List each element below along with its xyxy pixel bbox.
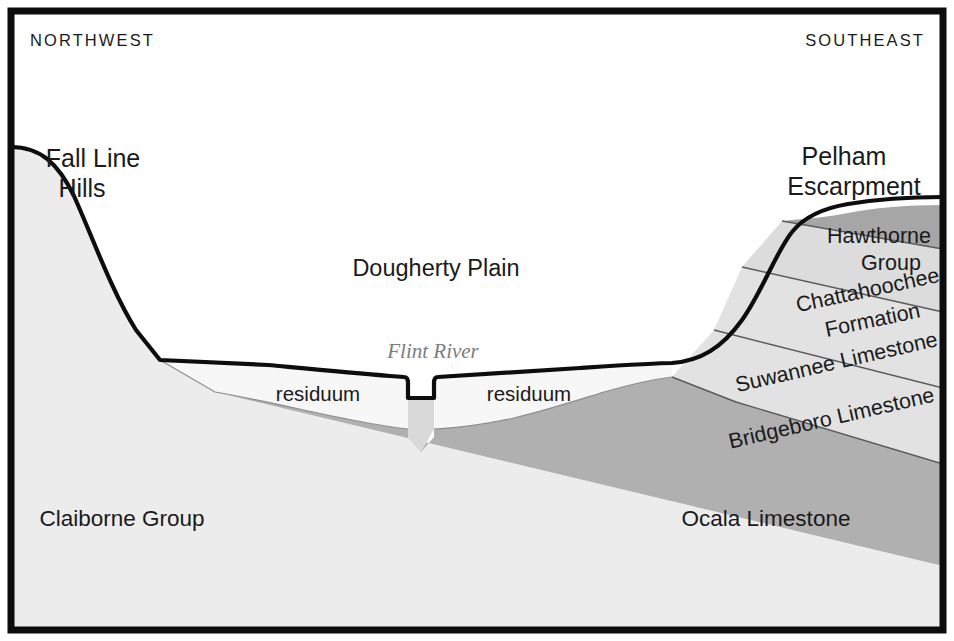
label-dougherty-plain: Dougherty Plain (352, 255, 519, 281)
label-fall-line-hills-line1: Fall Line (46, 144, 141, 172)
label-ocala-limestone: Ocala Limestone (682, 506, 851, 531)
label-pelham-escarpment-line2: Escarpment (787, 172, 920, 200)
cross-section-canvas: NORTHWEST SOUTHEAST Fall Line Hills Doug… (0, 0, 954, 641)
compass-label-southeast: SOUTHEAST (805, 31, 925, 49)
compass-label-northwest: NORTHWEST (30, 31, 155, 49)
label-fall-line-hills-line2: Hills (58, 174, 105, 202)
label-claiborne-group: Claiborne Group (39, 506, 204, 531)
label-residuum-left: residuum (276, 382, 360, 405)
label-flint-river: Flint River (386, 339, 479, 363)
geologic-cross-section-figure: NORTHWEST SOUTHEAST Fall Line Hills Doug… (0, 0, 954, 641)
label-residuum-right: residuum (487, 382, 571, 405)
flint-river-channel (408, 377, 434, 398)
label-pelham-escarpment-line1: Pelham (802, 142, 887, 170)
label-hawthorne-group-line1: Hawthorne (827, 224, 931, 248)
